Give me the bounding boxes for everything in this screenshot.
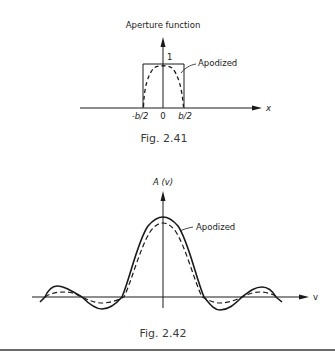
x-tick-zero: 0: [160, 111, 165, 121]
v-axis-label: v: [313, 292, 318, 302]
x-tick-half-b: b/2: [178, 111, 192, 121]
y-tick-1: 1: [167, 52, 172, 62]
unapodized-response-curve: [40, 217, 282, 310]
y-axis-arrow-icon: [161, 37, 166, 47]
bottom-divider: [0, 349, 335, 351]
apodized-response-curve: [45, 223, 278, 303]
aperture-title: Aperture function: [126, 20, 201, 30]
v-axis-arrow-icon: [299, 295, 309, 300]
apodized-label: Apodized: [198, 58, 237, 68]
apodized-label: Apodized: [196, 222, 235, 232]
x-axis-label: x: [265, 103, 272, 113]
caption-fig-2-42: Fig. 2.42: [139, 327, 186, 340]
figure-canvas: Aperture function x 1 Apodized -b/2 0 b/…: [0, 0, 335, 355]
x-tick-neg-half-b: -b/2: [132, 111, 149, 121]
x-axis-arrow-icon: [252, 106, 262, 111]
caption-fig-2-41: Fig. 2.41: [140, 132, 187, 145]
apodized-leader-line: [180, 227, 193, 231]
apodized-leader-line: [181, 64, 196, 73]
a-of-v-label: A (v): [152, 177, 173, 187]
y-axis-arrow-icon: [161, 191, 166, 201]
figure-2-41: Aperture function x 1 Apodized -b/2 0 b/…: [80, 20, 272, 145]
figure-2-42: A (v) v Apodized Fig. 2.42: [32, 177, 318, 340]
